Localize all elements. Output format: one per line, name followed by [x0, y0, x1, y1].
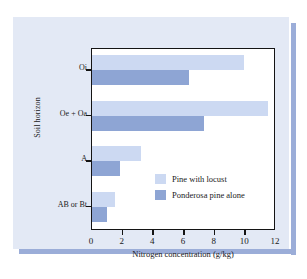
x-tick-mark	[122, 230, 124, 235]
legend-swatch-icon-1	[155, 174, 166, 184]
x-tick-label-12: 12	[263, 236, 287, 246]
bar-oe---oa-series-2	[92, 116, 204, 131]
bar-ab-or-bt-series-1	[92, 192, 115, 207]
bar-oi-series-2	[92, 70, 189, 85]
y-tick-label-ab-or-bt: AB or Bt	[17, 200, 87, 209]
legend-label-1: Pine with locust	[172, 174, 227, 184]
legend-item-1: Pine with locust	[155, 172, 245, 185]
legend-item-2: Ponderosa pine alone	[155, 188, 245, 201]
y-tick-label-a: A	[17, 154, 87, 163]
bar-a-series-2	[92, 161, 120, 176]
x-tick-label-8: 8	[202, 236, 226, 246]
x-tick-label-10: 10	[232, 236, 256, 246]
bar-oi-series-1	[92, 55, 244, 70]
y-axis-tick-labels: OiOe + OaAAB or Bt	[13, 48, 87, 230]
bar-oe---oa-series-1	[92, 101, 268, 116]
x-tick-label-4: 4	[140, 236, 164, 246]
x-tick-mark	[214, 230, 216, 235]
chart-legend: Pine with locustPonderosa pine alone	[155, 172, 245, 204]
legend-label-2: Ponderosa pine alone	[172, 190, 245, 200]
legend-swatch-icon-2	[155, 190, 166, 200]
y-tick-label-oi: Oi	[17, 63, 87, 72]
bar-ab-or-bt-series-2	[92, 207, 107, 222]
x-tick-label-6: 6	[171, 236, 195, 246]
bar-a-series-1	[92, 146, 141, 161]
x-tick-mark	[244, 230, 246, 235]
x-tick-label-2: 2	[110, 236, 134, 246]
y-tick-label-oe---oa: Oe + Oa	[17, 109, 87, 118]
x-axis-title: Nitrogen concentration (g/kg)	[91, 249, 275, 259]
figure-panel: Soil horizon OiOe + OaAAB or Bt 02468101…	[13, 17, 289, 249]
x-tick-label-0: 0	[79, 236, 103, 246]
x-tick-mark	[183, 230, 185, 235]
figure-shadow-right	[291, 23, 296, 255]
x-tick-mark	[152, 230, 154, 235]
